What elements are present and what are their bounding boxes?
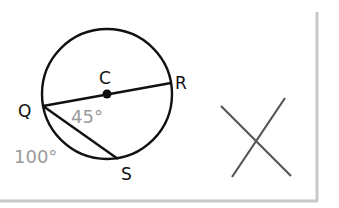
geometry-figure: C R Q S 45° 100° bbox=[0, 0, 339, 208]
x-mark-icon bbox=[221, 98, 291, 177]
angle-measure: 45° bbox=[71, 106, 103, 127]
label-r: R bbox=[175, 73, 187, 93]
center-point bbox=[103, 90, 112, 99]
arc-measure: 100° bbox=[14, 146, 57, 167]
label-s: S bbox=[121, 164, 132, 184]
label-q: Q bbox=[18, 101, 31, 121]
label-c: C bbox=[99, 68, 111, 88]
